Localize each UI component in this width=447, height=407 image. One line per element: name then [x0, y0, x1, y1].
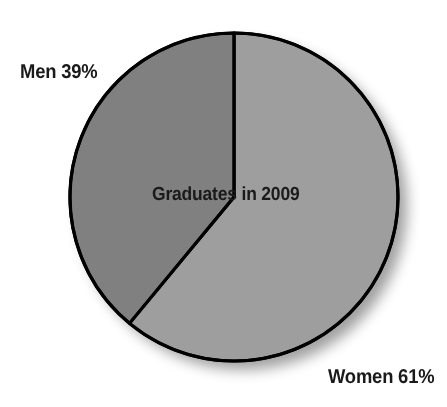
pie-label-men: Men 39%	[20, 62, 97, 82]
pie-chart-figure: Men 39% Women 61% Graduates in 2009	[0, 0, 447, 407]
pie-label-women: Women 61%	[328, 367, 434, 387]
pie-center-title: Graduates in 2009	[152, 185, 299, 204]
